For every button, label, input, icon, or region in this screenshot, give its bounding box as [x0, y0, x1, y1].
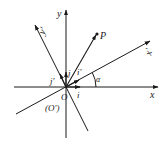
y-axis-label: y — [56, 8, 62, 19]
unit-j-prime-label: j' — [49, 76, 56, 86]
unit-i-prime-label: i' — [77, 67, 83, 77]
x-prime-axis-label: x' — [142, 47, 154, 57]
x-axis-label: x — [149, 89, 155, 100]
unit-i-label: i — [77, 90, 80, 100]
unit-vector-j-prime — [60, 74, 66, 87]
coordinate-rotation-diagram: y x y' x' P α j i' j' i O (O') — [0, 0, 167, 150]
point-p-label: P — [99, 30, 106, 41]
angle-alpha-label: α — [96, 75, 101, 84]
y-prime-axis-label: y' — [35, 25, 49, 37]
vector-op — [66, 35, 96, 87]
point-p — [95, 32, 98, 35]
origin-label: O — [61, 92, 68, 102]
unit-j-label: j — [67, 68, 71, 78]
x-prime-axis — [16, 41, 150, 114]
origin-prime-label: (O') — [45, 103, 59, 113]
